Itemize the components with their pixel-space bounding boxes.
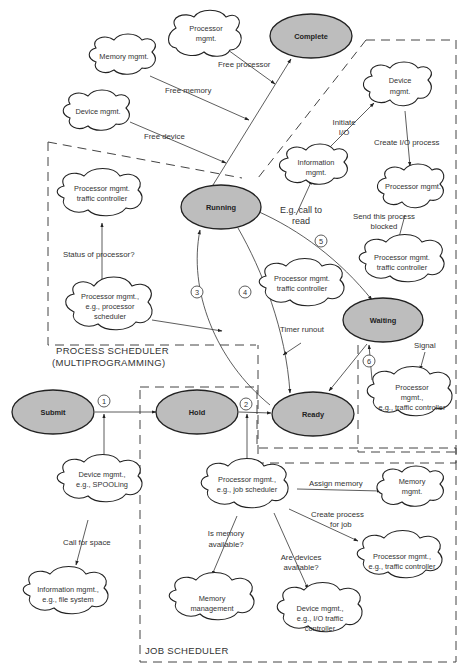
svg-text:traffic controller: traffic controller — [377, 263, 428, 272]
svg-text:available?: available? — [283, 563, 319, 572]
cloud-file-system: Information mgmt., e.g., file system — [23, 567, 108, 614]
svg-text:Memory: Memory — [399, 477, 426, 486]
svg-text:read: read — [292, 216, 310, 226]
svg-text:mgmt.: mgmt. — [196, 34, 217, 43]
process-scheduler-label: PROCESS SCHEDULER — [56, 345, 169, 356]
svg-text:traffic controller: traffic controller — [77, 194, 128, 203]
svg-text:for job: for job — [330, 520, 352, 529]
free-memory-arrow — [150, 76, 249, 120]
cloud-job-scheduler: Processor mgmt., e.g., job scheduler — [201, 459, 288, 508]
svg-text:Processor mgmt.: Processor mgmt. — [74, 184, 130, 193]
svg-text:Waiting: Waiting — [370, 316, 397, 325]
cloud-processor-top: Processor mgmt. — [169, 10, 242, 56]
svg-text:Send this process: Send this process — [353, 212, 415, 221]
label-free-processor: Free processor — [218, 60, 271, 69]
transition-marker-1: 1 — [98, 395, 110, 407]
svg-text:4: 4 — [243, 288, 247, 297]
label-call-to-read: E.g. call to read — [280, 205, 322, 226]
cloud-device-io-traffic: Device mgmt., e.g., I/O traffic controll… — [277, 583, 362, 634]
label-is-memory-available: Is memory available? — [208, 529, 244, 549]
are-devices-available-arrow — [274, 513, 308, 589]
svg-text:available?: available? — [208, 540, 244, 549]
process-scheduler-sublabel: (MULTIPROGRAMMING) — [52, 357, 165, 368]
svg-text:Device mgmt.: Device mgmt. — [75, 107, 120, 116]
cloud-traffic-left: Processor mgmt. traffic controller — [57, 169, 142, 216]
scheduler-to-ready-arrow — [152, 320, 222, 331]
svg-text:E.g. call to: E.g. call to — [280, 205, 322, 215]
transition-3-arrow — [197, 230, 270, 405]
process-scheduler-top-boundary — [48, 142, 242, 178]
transition-marker-3: 3 — [191, 286, 203, 298]
svg-text:e.g., SPOOLing: e.g., SPOOLing — [76, 480, 128, 489]
svg-text:mgmt.: mgmt. — [390, 87, 411, 96]
assign-memory-arrow — [297, 489, 381, 491]
state-hold: Hold — [156, 390, 238, 434]
svg-text:blocked: blocked — [371, 222, 398, 231]
svg-text:Memory: Memory — [199, 594, 226, 603]
cloud-device-io: Device mgmt. — [363, 62, 431, 106]
svg-text:Initiate: Initiate — [333, 118, 356, 127]
svg-text:Memory mgmt.: Memory mgmt. — [99, 52, 148, 61]
svg-text:e.g., job scheduler: e.g., job scheduler — [217, 485, 278, 494]
svg-text:Processor mgmt.: Processor mgmt. — [274, 274, 330, 283]
cloud-processor-io: Processor mgmt. — [377, 164, 443, 208]
svg-text:traffic controller: traffic controller — [277, 284, 328, 293]
cloud-information: Information mgmt. — [279, 144, 347, 184]
cloud-traffic-center: Processor mgmt. traffic controller — [259, 259, 344, 306]
svg-text:management: management — [190, 604, 233, 613]
transition-marker-6: 6 — [363, 355, 375, 367]
svg-text:mgmt.: mgmt. — [306, 168, 327, 177]
label-status-of-processor: Status of processor? — [63, 250, 135, 259]
svg-text:scheduler: scheduler — [94, 312, 127, 321]
job-scheduler-label: JOB SCHEDULER — [145, 645, 229, 656]
transition-marker-5: 5 — [315, 235, 327, 247]
transition-2-arrow — [239, 412, 271, 413]
cloud-spooling: Device mgmt., e.g., SPOOLing — [57, 455, 142, 502]
svg-text:e.g., I/O traffic: e.g., I/O traffic — [297, 614, 344, 623]
svg-text:e.g., processor: e.g., processor — [86, 302, 135, 311]
svg-text:Processor: Processor — [189, 24, 223, 33]
svg-text:3: 3 — [195, 288, 199, 297]
state-running: Running — [181, 185, 261, 229]
svg-text:Processor mgmt.: Processor mgmt. — [385, 182, 441, 191]
svg-text:1: 1 — [102, 397, 106, 406]
svg-text:controller: controller — [305, 624, 336, 633]
svg-text:Processor mgmt.,: Processor mgmt., — [373, 552, 431, 561]
cloud-memory-assign: Memory mgmt. — [377, 466, 443, 506]
svg-text:Hold: Hold — [189, 408, 206, 417]
svg-text:e.g., traffic controller: e.g., traffic controller — [369, 562, 436, 571]
label-initiate-io: Initiate I/O — [333, 118, 356, 137]
state-submit: Submit — [12, 390, 94, 434]
label-are-devices-available: Are devices available? — [281, 553, 322, 572]
svg-text:Is memory: Is memory — [208, 529, 244, 538]
state-complete: Complete — [270, 14, 352, 58]
label-free-device: Free device — [144, 132, 185, 141]
label-signal: Signal — [414, 341, 436, 350]
state-waiting: Waiting — [343, 298, 423, 342]
transition-marker-4: 4 — [239, 286, 251, 298]
diagram-canvas: PROCESS SCHEDULER (MULTIPROGRAMMING) JOB… — [0, 0, 469, 670]
state-ready: Ready — [272, 392, 354, 436]
free-device-arrow — [130, 122, 226, 163]
cloud-traffic-signal: Processor mgmt., e.g., traffic controlle… — [367, 367, 452, 416]
svg-text:e.g., file system: e.g., file system — [42, 595, 93, 604]
label-create-process-for-job: Create process for job — [311, 510, 364, 529]
svg-text:5: 5 — [319, 237, 323, 246]
label-call-for-space: Call for space — [63, 538, 111, 547]
transition-6-arrow — [329, 344, 367, 391]
svg-text:I/O: I/O — [339, 128, 349, 137]
cloud-memory-management: Memory management — [169, 573, 254, 620]
cloud-processor-scheduler: Processor mgmt., e.g., processor schedul… — [66, 277, 152, 330]
cloud-traffic-job: Processor mgmt., e.g., traffic controlle… — [357, 531, 442, 578]
svg-text:2: 2 — [244, 400, 248, 409]
svg-text:Complete: Complete — [294, 32, 328, 41]
svg-text:Processor: Processor — [395, 383, 429, 392]
label-free-memory: Free memory — [165, 86, 211, 95]
svg-text:e.g., traffic controller: e.g., traffic controller — [379, 403, 446, 412]
svg-text:Processor mgmt.,: Processor mgmt., — [81, 292, 139, 301]
svg-text:Information mgmt.,: Information mgmt., — [37, 585, 99, 594]
svg-text:Processor mgmt.,: Processor mgmt., — [218, 475, 276, 484]
transition-marker-2: 2 — [240, 398, 252, 410]
svg-text:Ready: Ready — [302, 410, 325, 419]
label-create-io-process: Create I/O process — [374, 138, 440, 147]
